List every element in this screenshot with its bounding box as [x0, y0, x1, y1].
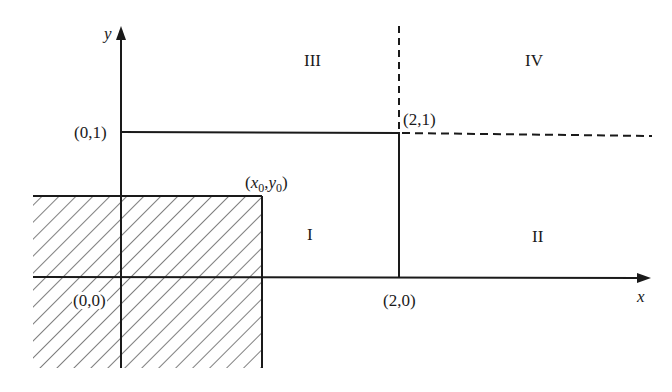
y-axis-label: y: [104, 25, 112, 42]
point-label-0-1: (0,1): [74, 124, 107, 141]
y0-var: y: [268, 173, 276, 192]
region-diagram: y x (0,1) (2,1) (0,0) (2,0) (x0,y0) III …: [0, 0, 672, 392]
dashed-line-y-equals-1: [402, 133, 652, 136]
region-label-I: I: [307, 226, 313, 243]
region-label-II: II: [532, 228, 543, 245]
x0-subscript: 0: [258, 181, 264, 195]
hatched-region: [33, 196, 262, 368]
paren-close: ): [282, 173, 288, 192]
point-label-2-1: (2,1): [403, 111, 436, 128]
y0-subscript: 0: [276, 181, 282, 195]
point-label-x0-y0: (x0,y0): [245, 174, 288, 191]
diagram-canvas: [0, 0, 672, 392]
y-axis-arrow-icon: [116, 26, 126, 40]
point-label-origin: (0,0): [72, 292, 107, 309]
point-label-2-0: (2,0): [383, 292, 416, 309]
x-axis-arrow-icon: [637, 273, 651, 283]
x-axis-label: x: [637, 288, 645, 305]
region-label-IV: IV: [525, 52, 543, 69]
region-label-III: III: [304, 52, 321, 69]
line-y-equals-1: [121, 132, 400, 133]
